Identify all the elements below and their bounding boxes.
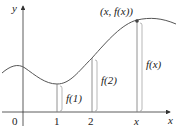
y-axis-label: y xyxy=(11,2,17,14)
height-label-fx: f(x) xyxy=(146,58,162,71)
bracket-fx xyxy=(140,23,142,111)
bracket-f1 xyxy=(60,86,62,111)
origin-label: 0 xyxy=(12,115,18,127)
point-label: (x, f(x)) xyxy=(100,5,133,18)
height-label-f1: f(1) xyxy=(66,92,82,105)
height-label-f2: f(2) xyxy=(101,74,117,87)
function-curve xyxy=(2,18,176,84)
x-axis-label: x xyxy=(167,114,173,126)
bracket-f2 xyxy=(95,60,97,111)
tick-label-x: x xyxy=(133,115,139,127)
tick-label-1: 1 xyxy=(54,115,60,127)
tick-label-2: 2 xyxy=(88,115,94,127)
function-graph: y x 0 1 2 x (x, f(x)) f(1) f(2) f(x) xyxy=(0,0,176,128)
point-marker xyxy=(135,19,139,23)
